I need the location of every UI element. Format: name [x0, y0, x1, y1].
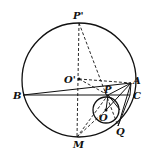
point-Oprime: [78, 78, 81, 81]
dashed-OprimeA: [79, 79, 131, 83]
segment-CQ: [118, 95, 130, 126]
label-P: P: [103, 84, 112, 95]
segment-BA: [23, 83, 131, 95]
label-Oprime: O': [64, 74, 76, 85]
label-B: B: [12, 90, 21, 101]
label-M: M: [72, 139, 85, 150]
label-A: A: [132, 75, 141, 86]
dashed-PprimeQ: [79, 23, 118, 126]
label-C: C: [133, 90, 141, 101]
label-O: O: [99, 112, 108, 123]
label-Q: Q: [116, 126, 125, 137]
label-Pprime: P': [72, 10, 84, 21]
geometry-diagram: P' O' A B C P O Q M: [0, 0, 151, 158]
